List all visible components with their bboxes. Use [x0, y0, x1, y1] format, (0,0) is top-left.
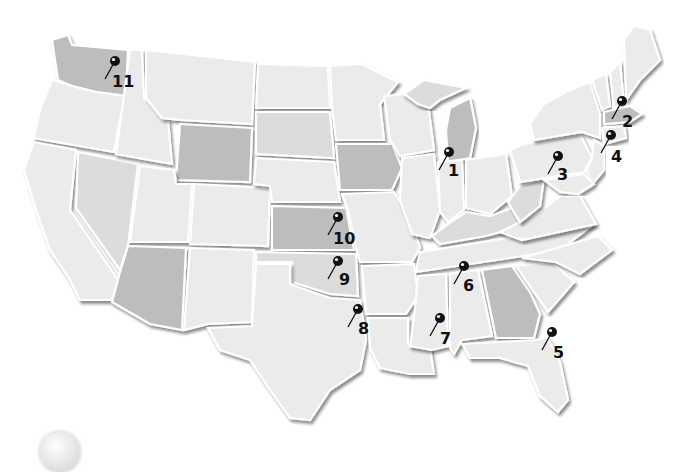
pin-highlight	[461, 263, 464, 266]
pin-label: 6	[463, 276, 474, 295]
pin-highlight	[437, 315, 440, 318]
pin-label: 9	[339, 270, 350, 289]
pin-label: 1	[448, 161, 459, 180]
state-ohio[interactable]	[466, 154, 512, 214]
pushpin-icon	[353, 304, 363, 314]
pushpin-icon	[547, 327, 557, 337]
pin-highlight	[555, 153, 558, 156]
pushpin-icon	[333, 212, 343, 222]
state-maine[interactable]	[624, 26, 660, 100]
pin-highlight	[112, 58, 115, 61]
pin-label: 3	[557, 165, 568, 184]
pin-label: 4	[611, 147, 622, 166]
corner-badge	[40, 432, 80, 472]
pushpin-icon	[606, 130, 616, 140]
pin-label: 2	[622, 112, 633, 131]
pin-highlight	[335, 258, 338, 261]
pin-highlight	[355, 306, 358, 309]
pin-highlight	[549, 329, 552, 332]
pushpin-icon	[333, 256, 343, 266]
state-arkansas[interactable]	[362, 264, 418, 314]
pin-highlight	[335, 214, 338, 217]
pin-highlight	[608, 132, 611, 135]
pin-label: 10	[333, 229, 355, 248]
pushpin-icon	[435, 313, 445, 323]
pushpin-icon	[617, 96, 627, 106]
state-colorado[interactable]	[190, 184, 270, 246]
pin-label: 7	[440, 329, 451, 348]
pushpin-icon	[459, 261, 469, 271]
state-wyoming[interactable]	[176, 124, 252, 182]
pin-label: 5	[553, 343, 564, 362]
pin-highlight	[446, 149, 449, 152]
state-new-mexico[interactable]	[184, 248, 254, 330]
state-new-york[interactable]	[530, 82, 600, 140]
state-montana[interactable]	[146, 50, 255, 124]
pushpin-icon	[444, 147, 454, 157]
state-north-dakota[interactable]	[256, 64, 330, 108]
pushpin-icon	[553, 151, 563, 161]
pin-label: 11	[112, 72, 134, 91]
state-iowa[interactable]	[336, 144, 402, 190]
pin-label: 8	[358, 319, 369, 338]
pin-highlight	[619, 98, 622, 101]
state-south-dakota[interactable]	[256, 112, 334, 158]
state-arizona[interactable]	[112, 246, 186, 330]
pushpin-icon	[110, 56, 120, 66]
